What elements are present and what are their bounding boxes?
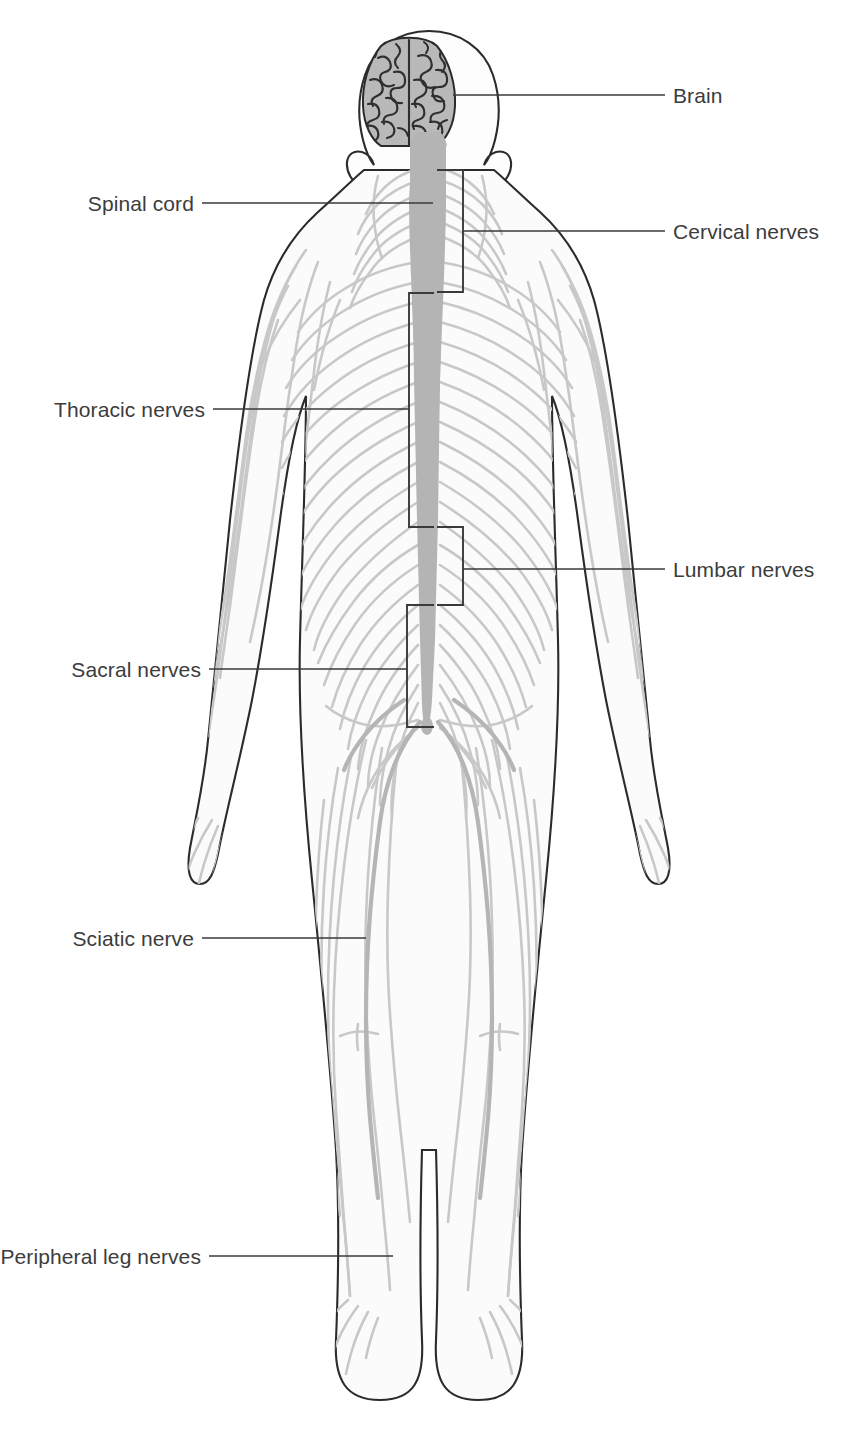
label-thoracic-nerves: Thoracic nerves — [54, 399, 205, 420]
label-spinal-cord: Spinal cord — [88, 193, 194, 214]
label-brain: Brain — [673, 85, 723, 106]
label-sciatic-nerve: Sciatic nerve — [72, 928, 194, 949]
nervous-system-diagram: Brain Cervical nerves Lumbar nerves Spin… — [0, 0, 857, 1431]
label-lumbar-nerves: Lumbar nerves — [673, 559, 814, 580]
label-cervical-nerves: Cervical nerves — [673, 221, 819, 242]
anatomical-figure — [0, 0, 857, 1431]
brain-structure — [363, 38, 455, 146]
label-peripheral-leg-nerves: Peripheral leg nerves — [0, 1246, 201, 1267]
label-sacral-nerves: Sacral nerves — [71, 659, 201, 680]
